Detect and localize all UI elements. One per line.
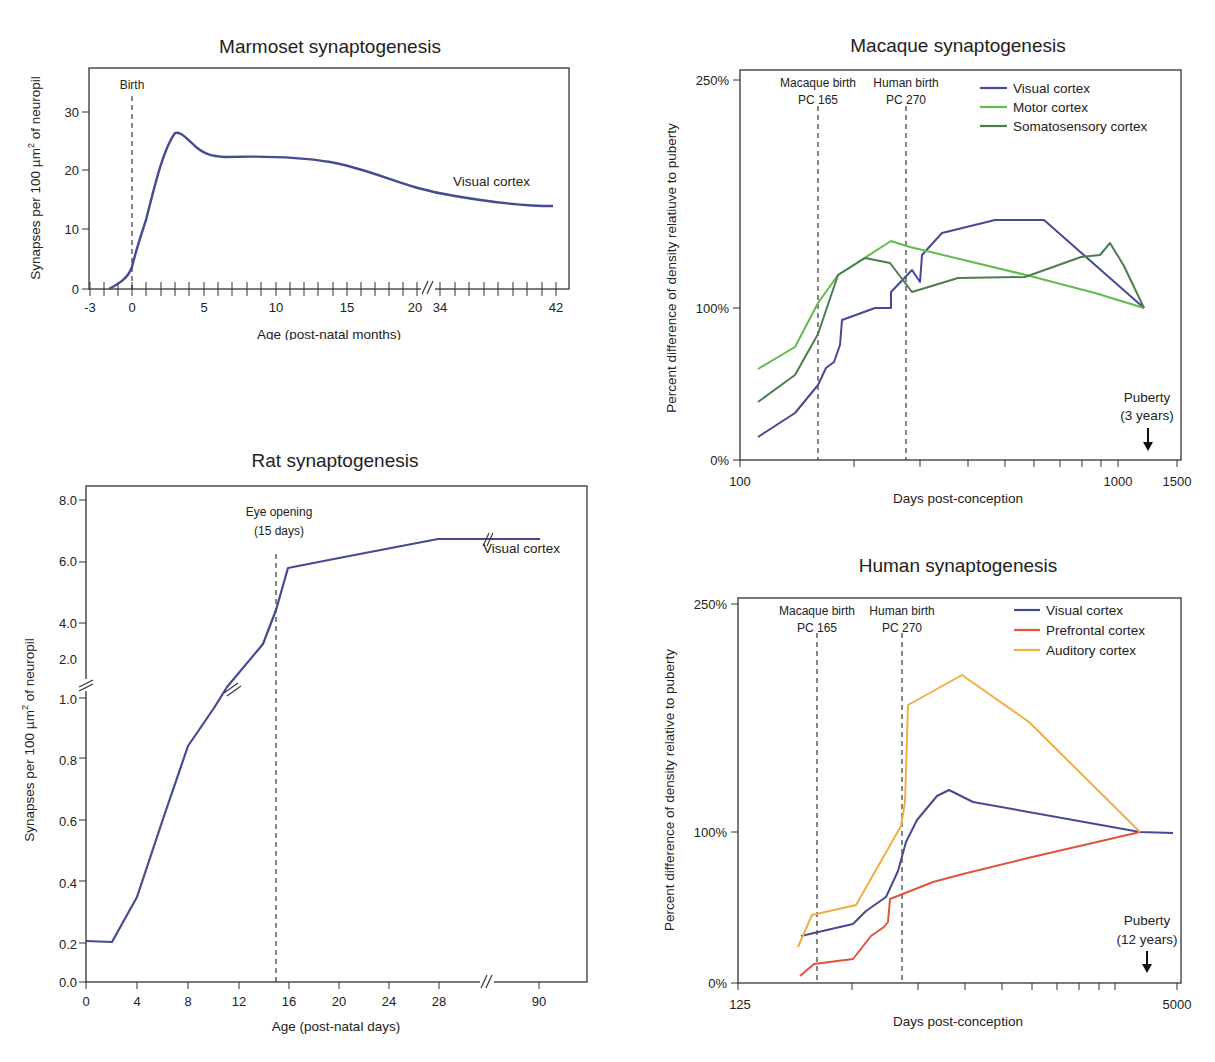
macaque-birth-label: Macaque birth: [780, 76, 856, 90]
marmoset-y-ticks: [82, 112, 89, 289]
human-auditory-cortex-line: [798, 675, 1140, 947]
macaque-xtick: 100: [729, 474, 751, 489]
macaque-ytick: 100%: [696, 301, 730, 316]
marmoset-series-label: Visual cortex: [453, 174, 530, 189]
human-ytick: 250%: [694, 597, 728, 612]
rat-xtick: 4: [133, 994, 140, 1009]
human-birth-label: Human birth: [869, 604, 934, 618]
marmoset-y-axis-label: Synapses per 100 µm2 of neuropil: [26, 76, 43, 279]
macaque-puberty-label: Puberty: [1124, 390, 1171, 405]
macaque-legend: Visual cortex Motor cortex Somatosensory…: [980, 81, 1148, 134]
marmoset-visual-cortex-line: [109, 133, 553, 289]
rat-chart: Rat synaptogenesis 8.0 6.0 4.0 2.0 1.0 0…: [0, 440, 620, 1062]
human-ytick: 0%: [708, 976, 727, 991]
macaque-motor-cortex-line: [758, 241, 1144, 369]
human-ytick: 100%: [694, 825, 728, 840]
macaque-ytick: 0%: [710, 453, 729, 468]
marmoset-ytick: 10: [65, 222, 79, 237]
rat-ytick: 6.0: [59, 554, 77, 569]
rat-x-ticks: [86, 982, 539, 989]
human-xtick: 5000: [1163, 997, 1192, 1012]
human-puberty-label: Puberty: [1124, 913, 1171, 928]
legend-label: Motor cortex: [1013, 100, 1088, 115]
rat-xtick: 0: [82, 994, 89, 1009]
human-title: Human synaptogenesis: [859, 555, 1058, 576]
macaque-x-axis-label: Days post-conception: [893, 491, 1023, 506]
rat-svg: Rat synaptogenesis 8.0 6.0 4.0 2.0 1.0 0…: [0, 440, 620, 1062]
human-y-ticks: [731, 604, 738, 983]
human-prefrontal-cortex-line: [800, 832, 1140, 976]
macaque-xtick: 1000: [1104, 474, 1133, 489]
rat-ytick: 0.6: [59, 814, 77, 829]
macaque-visual-cortex-line: [758, 220, 1144, 437]
rat-y-ticks: [79, 500, 86, 982]
marmoset-ytick: 30: [65, 105, 79, 120]
rat-ytick: 0.8: [59, 753, 77, 768]
human-legend: Visual cortex Prefrontal cortex Auditory…: [1014, 603, 1145, 658]
human-birth-label: Human birth: [873, 76, 938, 90]
macaque-birth-sublabel: PC 165: [797, 621, 837, 635]
rat-x-axis-break-icon: [480, 975, 494, 989]
rat-xtick: 12: [232, 994, 246, 1009]
rat-ytick: 1.0: [59, 692, 77, 707]
human-y-axis-label: Percent difference of density relative t…: [662, 649, 677, 931]
rat-ytick: 2.0: [59, 652, 77, 667]
legend-label: Visual cortex: [1013, 81, 1090, 96]
human-puberty-arrow-icon: [1142, 951, 1152, 973]
macaque-svg: Macaque synaptogenesis 250% 100% 0% 100 …: [640, 0, 1215, 520]
macaque-puberty-sublabel: (3 years): [1120, 408, 1173, 423]
marmoset-xtick: 0: [128, 300, 135, 315]
rat-ytick: 0.4: [59, 876, 77, 891]
rat-xtick: 16: [282, 994, 296, 1009]
macaque-ytick: 250%: [696, 73, 730, 88]
legend-label: Somatosensory cortex: [1013, 119, 1148, 134]
macaque-somatosensory-cortex-line: [758, 243, 1144, 402]
human-chart: Human synaptogenesis 250% 100% 0% 125 50…: [640, 540, 1215, 1062]
macaque-x-ticks: [740, 460, 1177, 467]
marmoset-axis-break-icon: [421, 280, 435, 294]
rat-title: Rat synaptogenesis: [252, 450, 419, 471]
rat-line-break-icon: [224, 533, 493, 696]
marmoset-xtick: 10: [269, 300, 283, 315]
macaque-birth-sublabel: PC 165: [798, 93, 838, 107]
marmoset-ytick: 20: [65, 163, 79, 178]
rat-ytick: 0.0: [59, 975, 77, 990]
rat-xtick: 28: [432, 994, 446, 1009]
human-svg: Human synaptogenesis 250% 100% 0% 125 50…: [640, 540, 1215, 1062]
rat-xtick: 20: [332, 994, 346, 1009]
marmoset-xtick: 34: [433, 300, 447, 315]
marmoset-ytick: 0: [72, 282, 79, 297]
birth-label: Birth: [120, 78, 145, 92]
human-x-axis-label: Days post-conception: [893, 1014, 1023, 1029]
rat-ytick: 0.2: [59, 937, 77, 952]
legend-label: Prefrontal cortex: [1046, 623, 1145, 638]
marmoset-xtick: 5: [200, 300, 207, 315]
marmoset-chart: Marmoset synaptogenesis 0 10 20 30: [0, 0, 600, 340]
human-visual-cortex-line: [801, 790, 1173, 936]
rat-ytick: 4.0: [59, 616, 77, 631]
rat-ytick: 8.0: [59, 493, 77, 508]
rat-xtick: 24: [382, 994, 396, 1009]
marmoset-title: Marmoset synaptogenesis: [219, 36, 441, 57]
marmoset-xtick: 15: [340, 300, 354, 315]
rat-visual-cortex-line: [86, 539, 540, 942]
legend-label: Auditory cortex: [1046, 643, 1136, 658]
rat-x-axis-label: Age (post-natal days): [272, 1019, 400, 1034]
human-birth-sublabel: PC 270: [886, 93, 926, 107]
marmoset-x-axis-label: Age (post-natal months): [257, 327, 401, 340]
legend-label: Visual cortex: [1046, 603, 1123, 618]
human-birth-sublabel: PC 270: [882, 621, 922, 635]
macaque-birth-label: Macaque birth: [779, 604, 855, 618]
human-xtick: 125: [729, 997, 751, 1012]
macaque-chart: Macaque synaptogenesis 250% 100% 0% 100 …: [640, 0, 1215, 520]
marmoset-xtick: 20: [408, 300, 422, 315]
marmoset-svg: Marmoset synaptogenesis 0 10 20 30: [0, 0, 600, 340]
rat-y-axis-label: Synapses per 100 µm2 of neuropil: [20, 638, 37, 841]
macaque-y-axis-label: Percent difference of density relatiuve …: [664, 123, 679, 413]
rat-series-label: Visual cortex: [483, 541, 560, 556]
eye-opening-label: Eye opening: [246, 505, 313, 519]
eye-opening-sublabel: (15 days): [254, 524, 304, 538]
macaque-title: Macaque synaptogenesis: [850, 35, 1065, 56]
human-puberty-sublabel: (12 years): [1117, 932, 1178, 947]
macaque-y-ticks: [733, 80, 740, 460]
